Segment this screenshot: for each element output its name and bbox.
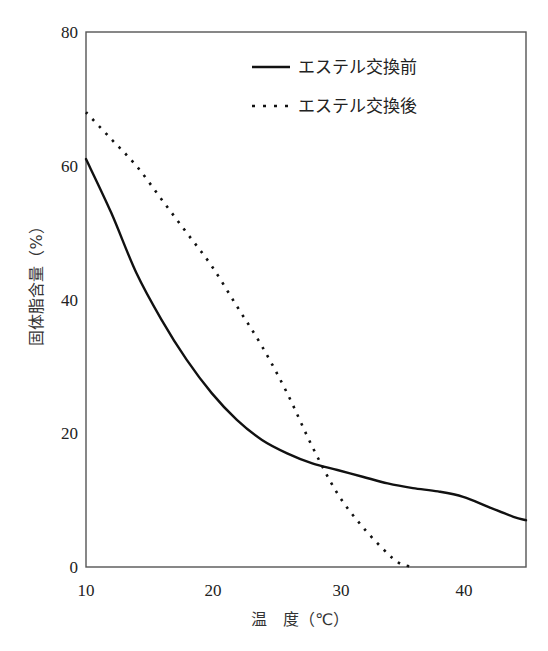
- x-axis-label: 温 度（℃）: [251, 610, 349, 629]
- series-after-line: [86, 112, 413, 567]
- solid-fat-content-chart: 80 60 40 20 0 10 20 30 40 温 度（℃） 固体脂含量（%…: [0, 0, 548, 651]
- y-tick-80: 80: [61, 23, 78, 42]
- y-tick-20: 20: [61, 424, 78, 443]
- x-tick-20: 20: [205, 581, 222, 600]
- series-before-line: [86, 159, 526, 520]
- y-axis-label: 固体脂含量（%）: [27, 218, 46, 345]
- y-tick-60: 60: [61, 157, 78, 176]
- legend-label-after: エステル交換後: [298, 96, 417, 116]
- legend-label-before: エステル交換前: [298, 57, 417, 77]
- legend: エステル交換前 エステル交換後: [252, 57, 417, 116]
- x-tick-40: 40: [456, 581, 473, 600]
- x-tick-30: 30: [333, 581, 350, 600]
- y-tick-0: 0: [70, 558, 79, 577]
- y-tick-40: 40: [61, 291, 78, 310]
- x-tick-10: 10: [78, 581, 95, 600]
